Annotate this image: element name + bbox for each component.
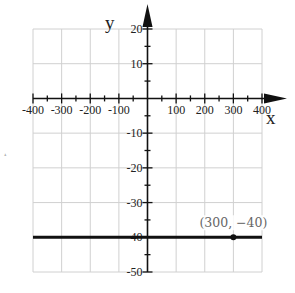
x-tick-label: 300 [224, 103, 242, 117]
y-tick-label: -30 [127, 196, 143, 210]
x-tick-label: -200 [79, 103, 101, 117]
x-axis-arrow-icon [264, 93, 287, 103]
graph: -400-300-200-1001002003004002010-10-20-3… [0, 0, 295, 293]
y-tick-label: 20 [131, 22, 143, 36]
y-axis-arrow-icon [143, 4, 153, 27]
y-axis-label: y [105, 12, 115, 33]
x-tick-label: 200 [196, 103, 214, 117]
stray-mark: ˔ [3, 150, 8, 160]
x-tick-label: -300 [51, 103, 73, 117]
point-label: (300, −40) [199, 215, 267, 230]
x-tick-label: 100 [167, 103, 185, 117]
y-tick-label: 10 [131, 57, 143, 71]
axes [33, 4, 287, 272]
y-tick-label: -20 [127, 161, 143, 175]
y-tick-label: -50 [127, 265, 143, 279]
data-point [230, 234, 236, 240]
y-tick-label: -10 [127, 126, 143, 140]
x-tick-label: -100 [108, 103, 130, 117]
x-tick-label: -400 [22, 103, 44, 117]
x-axis-label: x [266, 107, 276, 128]
